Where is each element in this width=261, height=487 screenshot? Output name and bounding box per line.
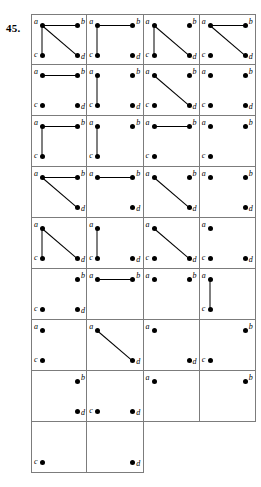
- subgraph-row: abcdabcdabcdabcd: [31, 65, 256, 116]
- vertex-label-c: c: [146, 254, 150, 262]
- graph-vertex-b: [187, 73, 192, 78]
- vertex-label-a: a: [202, 170, 206, 178]
- subgraph-cell: cd: [87, 371, 143, 422]
- graph-vertex-c: [208, 307, 213, 312]
- graph-vertex-c: [40, 460, 45, 465]
- graph-vertex-a: [208, 23, 213, 28]
- graph-vertex-a: [152, 73, 157, 78]
- graph-vertex-c: [152, 256, 157, 261]
- vertex-label-a: a: [202, 68, 206, 76]
- vertex-label-c: c: [202, 254, 206, 262]
- vertex-label-d: d: [81, 53, 85, 61]
- graph-vertex-c: [40, 358, 45, 363]
- subgraph-cell: bc: [200, 320, 256, 371]
- subgraph-cell: abd: [200, 167, 256, 218]
- vertex-label-b: b: [136, 18, 140, 26]
- subgraph-cell: abc: [200, 116, 256, 167]
- graph-vertex-a: [152, 175, 157, 180]
- graph-vertex-a: [208, 175, 213, 180]
- graph-vertex-a: [95, 175, 100, 180]
- vertex-label-b: b: [193, 119, 197, 127]
- vertex-label-a: a: [146, 374, 150, 382]
- figure-container: 45. abcdabcdabcdabcdabcdabcdabcdabcdabca…: [0, 0, 261, 487]
- graph-vertex-a: [40, 328, 45, 333]
- vertex-label-c: c: [34, 51, 38, 59]
- graph-vertex-c: [95, 409, 100, 414]
- graph-vertex-c: [152, 103, 157, 108]
- graph-vertex-b: [130, 124, 135, 129]
- subgraph-cell: abcd: [87, 65, 143, 116]
- vertex-label-a: a: [89, 119, 93, 127]
- vertex-label-a: a: [34, 18, 38, 26]
- vertex-label-c: c: [202, 51, 206, 59]
- graph-vertex-b: [75, 73, 80, 78]
- subgraph-row: abcabcabcabc: [31, 116, 256, 167]
- subgraph-row: abdabdabdabd: [31, 167, 256, 218]
- vertex-label-d: d: [136, 358, 140, 366]
- vertex-label-d: d: [136, 103, 140, 111]
- graph-vertex-d: [187, 103, 192, 108]
- graph-vertex-a: [40, 226, 45, 231]
- graph-edge-ad: [153, 75, 189, 106]
- vertex-label-d: d: [81, 205, 85, 213]
- vertex-label-d: d: [136, 205, 140, 213]
- graph-vertex-d: [187, 53, 192, 58]
- vertex-label-b: b: [193, 170, 197, 178]
- graph-edge-ac: [153, 26, 154, 56]
- vertex-label-d: d: [81, 307, 85, 315]
- vertex-label-b: b: [81, 68, 85, 76]
- graph-vertex-a: [152, 124, 157, 129]
- graph-vertex-c: [95, 103, 100, 108]
- vertex-label-b: b: [81, 272, 85, 280]
- graph-edge-ab: [97, 177, 133, 178]
- graph-vertex-a: [152, 379, 157, 384]
- subgraph-cell: ac: [31, 320, 87, 371]
- vertex-label-d: d: [193, 205, 197, 213]
- vertex-label-c: c: [89, 407, 93, 415]
- graph-vertex-d: [243, 205, 248, 210]
- vertex-label-b: b: [249, 374, 253, 382]
- graph-edge-ab: [42, 126, 78, 127]
- graph-vertex-b: [243, 23, 248, 28]
- subgraph-cell: acd: [87, 218, 143, 269]
- vertex-label-b: b: [193, 68, 197, 76]
- subgraph-cell: abc: [87, 116, 143, 167]
- vertex-label-b: b: [81, 374, 85, 382]
- subgraph-cell: b: [200, 371, 256, 422]
- vertex-label-b: b: [249, 68, 253, 76]
- graph-edge-ac: [97, 26, 98, 56]
- vertex-label-c: c: [202, 152, 206, 160]
- graph-edge-ab: [97, 279, 133, 280]
- graph-vertex-d: [130, 256, 135, 261]
- vertex-label-c: c: [34, 101, 38, 109]
- graph-edge-ad: [42, 177, 78, 208]
- subgraph-cell: abcd: [87, 14, 143, 65]
- graph-vertex-b: [187, 124, 192, 129]
- graph-vertex-d: [75, 409, 80, 414]
- graph-vertex-b: [187, 277, 192, 282]
- graph-vertex-c: [40, 307, 45, 312]
- graph-vertex-c: [95, 53, 100, 58]
- graph-edge-ab: [210, 25, 246, 26]
- graph-vertex-a: [152, 277, 157, 282]
- graph-vertex-d: [130, 358, 135, 363]
- vertex-label-a: a: [146, 272, 150, 280]
- graph-vertex-b: [130, 73, 135, 78]
- graph-vertex-c: [208, 256, 213, 261]
- graph-edge-ac: [97, 229, 98, 259]
- vertex-label-d: d: [136, 53, 140, 61]
- graph-vertex-b: [187, 175, 192, 180]
- vertex-label-c: c: [34, 458, 38, 466]
- graph-vertex-d: [130, 103, 135, 108]
- graph-edge-ad: [42, 25, 78, 56]
- vertex-label-d: d: [81, 256, 85, 264]
- subgraph-cell: ad: [144, 320, 200, 371]
- vertex-label-b: b: [136, 119, 140, 127]
- subgraph-row: acdacdacdacd: [31, 218, 256, 269]
- vertex-label-a: a: [34, 323, 38, 331]
- vertex-label-a: a: [34, 170, 38, 178]
- graph-vertex-d: [75, 53, 80, 58]
- graph-edge-ad: [153, 25, 189, 56]
- graph-edge-ab: [42, 177, 78, 178]
- vertex-label-c: c: [202, 101, 206, 109]
